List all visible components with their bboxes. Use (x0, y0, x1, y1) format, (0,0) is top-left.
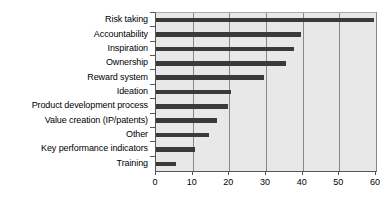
x-axis-tick (375, 171, 376, 175)
category-label: Training (0, 156, 152, 170)
bar (156, 47, 294, 52)
x-axis-tick-label: 20 (223, 176, 233, 188)
bars-container (156, 13, 376, 171)
category-axis-labels: Risk takingAccountabilityInspirationOwne… (0, 12, 152, 170)
bar-row (156, 128, 376, 142)
category-label: Value creation (IP/patents) (0, 113, 152, 127)
x-axis-tick (302, 171, 303, 175)
category-label: Risk taking (0, 12, 152, 26)
category-label: Ownership (0, 55, 152, 69)
gridline (376, 13, 377, 171)
bar-row (156, 56, 376, 70)
plot-area (155, 12, 377, 172)
bar-row (156, 114, 376, 128)
x-axis-tick-label: 30 (260, 176, 270, 188)
category-label: Key performance indicators (0, 141, 152, 155)
bar (156, 104, 228, 109)
bar-row (156, 13, 376, 27)
bar-row (156, 157, 376, 171)
bar (156, 118, 217, 123)
category-label: Ideation (0, 84, 152, 98)
bar (156, 147, 195, 152)
bar (156, 61, 286, 66)
bar (156, 90, 231, 95)
bar (156, 75, 264, 80)
x-axis-tick-label: 60 (370, 176, 380, 188)
x-axis-tick-label: 50 (333, 176, 343, 188)
bar-row (156, 142, 376, 156)
x-axis-tick-label: 0 (152, 176, 157, 188)
bar-row (156, 42, 376, 56)
category-label: Product development process (0, 98, 152, 112)
x-axis-tick (338, 171, 339, 175)
category-label: Inspiration (0, 41, 152, 55)
category-label: Accountability (0, 26, 152, 40)
bar (156, 18, 374, 23)
x-axis-tick (228, 171, 229, 175)
bar (156, 32, 301, 37)
category-label: Other (0, 127, 152, 141)
bar-row (156, 85, 376, 99)
bar-row (156, 27, 376, 41)
x-axis-tick-label: 40 (297, 176, 307, 188)
bar-row (156, 99, 376, 113)
x-axis-tick-label: 10 (187, 176, 197, 188)
bar (156, 162, 176, 167)
bar (156, 133, 209, 138)
category-label: Reward system (0, 69, 152, 83)
x-axis-tick (155, 171, 156, 175)
bar-row (156, 70, 376, 84)
bar-chart: Risk takingAccountabilityInspirationOwne… (0, 0, 388, 203)
x-axis-tick (265, 171, 266, 175)
x-axis-tick (192, 171, 193, 175)
x-axis-tick-labels: 0102030405060 (155, 176, 375, 190)
